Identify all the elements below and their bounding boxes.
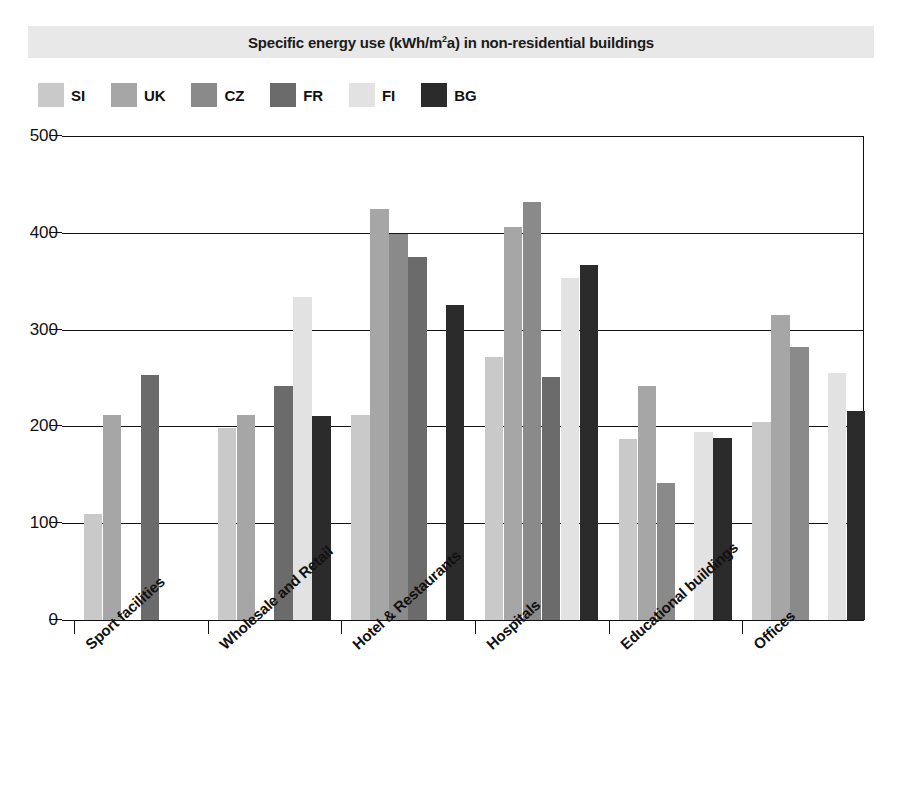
bar-slot-uk	[103, 136, 121, 620]
legend-item-fr[interactable]: FR	[270, 83, 323, 107]
legend-label: FR	[303, 87, 323, 104]
y-axis-tick-label: 500	[0, 126, 58, 146]
y-axis-tick-label: 100	[0, 513, 58, 533]
bar-group	[351, 136, 465, 620]
legend-swatch-fi	[349, 83, 375, 107]
chart-title-banner: Specific energy use (kWh/m2a) in non-res…	[28, 26, 874, 58]
legend-label: FI	[382, 87, 395, 104]
bar-group	[619, 136, 733, 620]
bar-group	[752, 136, 866, 620]
bar-slot-cz	[256, 136, 274, 620]
y-axis-tick-label: 0	[0, 610, 58, 630]
bar-group	[485, 136, 599, 620]
title-suffix: a) in non-residential buildings	[447, 34, 654, 51]
legend-label: BG	[454, 87, 476, 104]
bar-slot-uk	[771, 136, 789, 620]
chart-legend: SIUKCZFRFIBG	[38, 82, 503, 108]
bar-slot-fi	[561, 136, 579, 620]
bar-uk[interactable]	[103, 415, 121, 620]
bar-si[interactable]	[84, 514, 102, 620]
legend-label: SI	[71, 87, 85, 104]
bar-slot-fi	[293, 136, 311, 620]
bar-fr[interactable]	[408, 257, 426, 620]
x-tick-mark	[742, 620, 743, 634]
bar-slot-cz	[122, 136, 140, 620]
bar-si[interactable]	[351, 415, 369, 620]
bar-slot-fi	[694, 136, 712, 620]
bar-si[interactable]	[485, 357, 503, 620]
legend-swatch-cz	[191, 83, 217, 107]
bar-si[interactable]	[218, 428, 236, 620]
bar-slot-fr	[809, 136, 827, 620]
x-tick-mark	[475, 620, 476, 634]
bar-cz[interactable]	[389, 234, 407, 620]
bar-slot-si	[218, 136, 236, 620]
bar-group	[218, 136, 332, 620]
legend-item-bg[interactable]: BG	[421, 83, 476, 107]
bar-group	[84, 136, 198, 620]
bar-slot-si	[84, 136, 102, 620]
bar-uk[interactable]	[638, 386, 656, 620]
bar-bg[interactable]	[312, 416, 330, 620]
legend-label: CZ	[224, 87, 244, 104]
x-tick-mark	[609, 620, 610, 634]
bar-slot-fr	[675, 136, 693, 620]
y-axis-tick-label: 300	[0, 320, 58, 340]
legend-item-cz[interactable]: CZ	[191, 83, 244, 107]
bar-slot-uk	[370, 136, 388, 620]
bar-slot-fr	[274, 136, 292, 620]
legend-item-si[interactable]: SI	[38, 83, 85, 107]
legend-swatch-si	[38, 83, 64, 107]
legend-label: UK	[144, 87, 165, 104]
bar-slot-cz	[657, 136, 675, 620]
bar-slot-cz	[389, 136, 407, 620]
bar-uk[interactable]	[504, 227, 522, 620]
legend-swatch-bg	[421, 83, 447, 107]
bar-cz[interactable]	[790, 347, 808, 620]
bar-uk[interactable]	[771, 315, 789, 620]
bar-fr[interactable]	[542, 377, 560, 620]
bar-slot-fr	[141, 136, 159, 620]
bar-bg[interactable]	[580, 265, 598, 620]
bar-bg[interactable]	[713, 438, 731, 620]
legend-item-fi[interactable]: FI	[349, 83, 395, 107]
y-axis-tick-label: 400	[0, 223, 58, 243]
bar-fi[interactable]	[561, 278, 579, 620]
x-tick-mark	[208, 620, 209, 634]
bar-slot-fr	[542, 136, 560, 620]
chart-container: Specific energy use (kWh/m2a) in non-res…	[0, 0, 901, 806]
bar-slot-fi	[427, 136, 445, 620]
legend-swatch-uk	[111, 83, 137, 107]
bar-slot-uk	[237, 136, 255, 620]
bar-si[interactable]	[752, 422, 770, 620]
y-axis-tick-label: 200	[0, 416, 58, 436]
bar-uk[interactable]	[370, 209, 388, 620]
legend-swatch-fr	[270, 83, 296, 107]
bar-slot-cz	[790, 136, 808, 620]
bar-slot-si	[485, 136, 503, 620]
bar-slot-fi	[160, 136, 178, 620]
axis-baseline	[62, 620, 864, 621]
bar-cz[interactable]	[523, 202, 541, 620]
page-title: Specific energy use (kWh/m2a) in non-res…	[248, 34, 654, 51]
bar-slot-bg	[847, 136, 865, 620]
bar-slot-si	[752, 136, 770, 620]
title-prefix: Specific energy use (kWh/m	[248, 34, 442, 51]
plot-area: 0100200300400500	[62, 136, 864, 620]
x-tick-mark	[341, 620, 342, 634]
bar-slot-uk	[638, 136, 656, 620]
bar-bg[interactable]	[847, 411, 865, 620]
bar-fi[interactable]	[694, 432, 712, 620]
bar-uk[interactable]	[237, 415, 255, 620]
bar-slot-fr	[408, 136, 426, 620]
bar-slot-bg	[179, 136, 197, 620]
bar-slot-cz	[523, 136, 541, 620]
x-tick-mark	[74, 620, 75, 634]
bar-fi[interactable]	[828, 373, 846, 620]
legend-item-uk[interactable]: UK	[111, 83, 165, 107]
bar-slot-bg	[580, 136, 598, 620]
bar-si[interactable]	[619, 439, 637, 620]
bar-slot-bg	[446, 136, 464, 620]
bar-slot-si	[619, 136, 637, 620]
bar-slot-si	[351, 136, 369, 620]
